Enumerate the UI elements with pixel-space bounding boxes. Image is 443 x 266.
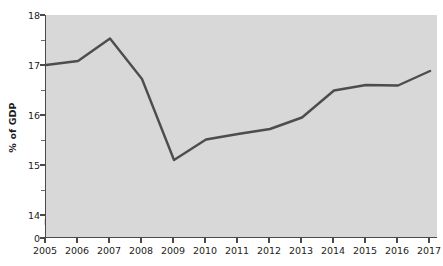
x-tick-label: 2010 xyxy=(193,245,217,256)
x-tick-label: 2008 xyxy=(129,245,153,256)
y-tick-label: 14 xyxy=(16,210,40,221)
y-tick-label: 17 xyxy=(16,60,40,71)
x-tick-mark xyxy=(236,238,237,243)
x-tick-mark xyxy=(204,238,205,243)
x-tick-label: 2006 xyxy=(65,245,89,256)
y-axis-title: % of GDP xyxy=(7,88,18,168)
chart-container: % of GDP 18171615140 2005200620072008200… xyxy=(0,0,443,266)
x-tick-label: 2014 xyxy=(321,245,345,256)
x-tick-mark xyxy=(44,238,45,243)
x-tick-mark xyxy=(108,238,109,243)
x-tick-mark xyxy=(140,238,141,243)
plot-area xyxy=(45,15,437,238)
x-tick-mark xyxy=(332,238,333,243)
x-tick-mark xyxy=(172,238,173,243)
y-tick-label: 0 xyxy=(16,233,40,244)
x-tick-mark xyxy=(300,238,301,243)
y-tick-label: 16 xyxy=(16,110,40,121)
x-tick-mark xyxy=(396,238,397,243)
y-tick-label: 15 xyxy=(16,160,40,171)
x-tick-label: 2011 xyxy=(225,245,249,256)
x-tick-mark xyxy=(364,238,365,243)
x-tick-label: 2016 xyxy=(385,245,409,256)
y-tick-label: 18 xyxy=(16,10,40,21)
x-tick-label: 2012 xyxy=(257,245,281,256)
x-tick-mark xyxy=(76,238,77,243)
x-tick-label: 2015 xyxy=(353,245,377,256)
x-tick-label: 2017 xyxy=(417,245,441,256)
x-tick-label: 2007 xyxy=(97,245,121,256)
x-tick-label: 2005 xyxy=(33,245,57,256)
x-tick-mark xyxy=(268,238,269,243)
x-tick-label: 2009 xyxy=(161,245,185,256)
data-series-line xyxy=(46,15,438,238)
x-tick-label: 2013 xyxy=(289,245,313,256)
x-tick-mark xyxy=(428,238,429,243)
